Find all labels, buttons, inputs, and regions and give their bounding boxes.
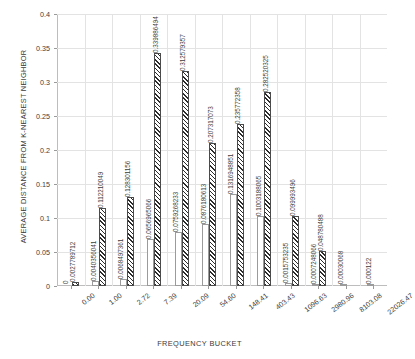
y-tick-label: 0.05	[0, 248, 50, 257]
x-tick-mark	[208, 286, 209, 289]
gridline-vertical	[277, 14, 278, 286]
bar-value-label: 0.0027789712	[69, 242, 76, 282]
x-tick-label: 8103.08	[357, 291, 383, 314]
x-tick-label: 1096.63	[302, 291, 328, 314]
bar	[237, 124, 244, 286]
gridline-vertical	[250, 14, 251, 286]
x-tick-label: 20.09	[191, 291, 211, 309]
bar-value-label: 0.00030068	[337, 251, 344, 284]
bar-value-label: 0.099993496	[289, 179, 296, 216]
bar-value-label: 0.207317073	[207, 106, 214, 143]
bar-value-label: 0.282520325	[262, 55, 269, 92]
gridline-vertical	[305, 14, 306, 286]
x-tick-mark	[71, 286, 72, 289]
x-tick-mark	[153, 286, 154, 289]
bar	[127, 197, 134, 286]
x-tick-mark	[318, 286, 319, 289]
bar	[99, 208, 106, 286]
bar-value-label: 0.0015753235	[282, 243, 289, 283]
bar-value-label: 0.1316948851	[227, 154, 234, 194]
x-tick-label: 0.00	[80, 291, 97, 307]
x-tick-mark	[373, 286, 374, 289]
y-tick-label: 0.35	[0, 44, 50, 53]
bar-value-label: 0.235772358	[234, 87, 241, 124]
y-tick-mark	[54, 14, 57, 15]
bar	[292, 216, 299, 286]
gridline-vertical	[222, 14, 223, 286]
y-tick-label: 0	[0, 282, 50, 291]
x-axis-title: FREQUENCY BUCKET	[0, 339, 399, 348]
x-tick-mark	[181, 286, 182, 289]
y-tick-label: 0.2	[0, 146, 50, 155]
y-tick-mark	[54, 150, 57, 151]
x-tick-mark	[236, 286, 237, 289]
y-tick-mark	[54, 184, 57, 185]
x-tick-label: 148.41	[246, 291, 269, 312]
y-tick-mark	[54, 286, 57, 287]
gridline-vertical	[195, 14, 196, 286]
gridline-vertical	[112, 14, 113, 286]
bar-value-label: 0.048780488	[317, 214, 324, 251]
x-tick-label: 54.60	[218, 291, 238, 309]
bar-value-label: 0.1003188065	[255, 176, 262, 216]
bar	[182, 71, 189, 286]
bar	[319, 251, 326, 286]
x-tick-label: 1.00	[107, 291, 124, 307]
y-tick-mark	[54, 116, 57, 117]
bar	[72, 282, 79, 286]
bar-value-label: 0.0068497361	[117, 239, 124, 279]
bar-value-label: 0.339886494	[152, 16, 159, 53]
x-tick-label: 22026.47	[386, 291, 415, 317]
bar-value-label: 0.0656965066	[145, 199, 152, 239]
x-tick-mark	[126, 286, 127, 289]
y-tick-label: 0.3	[0, 78, 50, 87]
y-tick-label: 0.1	[0, 214, 50, 223]
y-tick-label: 0.4	[0, 10, 50, 19]
bar-value-label: 0.0007248066	[310, 243, 317, 283]
bar-value-label: 0.0759268233	[172, 192, 179, 232]
bar-value-label: 0.112210049	[97, 171, 104, 207]
bar-value-label: 0.0040356041	[90, 241, 97, 281]
bar	[264, 92, 271, 286]
x-tick-label: 2980.96	[330, 291, 356, 314]
gridline-vertical	[332, 14, 333, 286]
x-tick-label: 2.72	[135, 291, 152, 307]
bar-value-label: 0.128301156	[124, 160, 131, 196]
x-tick-mark	[263, 286, 264, 289]
x-tick-mark	[98, 286, 99, 289]
x-tick-label: 7.39	[162, 291, 179, 307]
y-tick-label: 0.25	[0, 112, 50, 121]
y-tick-label: 0.15	[0, 180, 50, 189]
plot-area: 00.00277897120.00403560410.1122100490.00…	[57, 14, 387, 286]
gridline-vertical	[140, 14, 141, 286]
y-tick-mark	[54, 48, 57, 49]
bar	[154, 53, 161, 286]
y-tick-mark	[54, 252, 57, 253]
bar	[209, 143, 216, 286]
bar-value-label: 0.312579357	[179, 35, 186, 72]
gridline-vertical	[167, 14, 168, 286]
gridline-vertical	[360, 14, 361, 286]
bar-value-label: 0.000122	[365, 258, 372, 284]
x-tick-mark	[346, 286, 347, 289]
bar-value-label: 0.0876180613	[200, 184, 207, 224]
x-tick-mark	[291, 286, 292, 289]
gridline-vertical	[85, 14, 86, 286]
y-tick-mark	[54, 82, 57, 83]
x-tick-label: 403.43	[274, 291, 297, 312]
y-tick-mark	[54, 218, 57, 219]
